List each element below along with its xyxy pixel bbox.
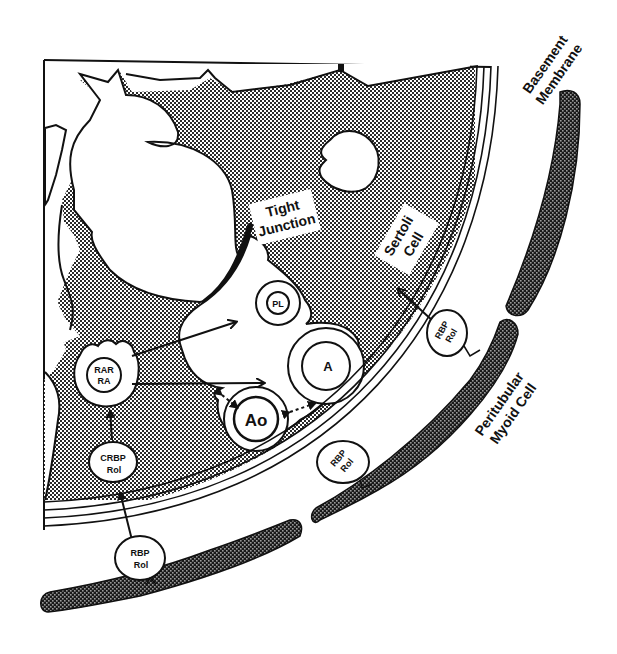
- node-a: A: [288, 328, 364, 404]
- rbp-bottom-label: RBP: [130, 548, 149, 558]
- germ-cell-small: [319, 131, 378, 192]
- node-rar-ra: RAR RA: [74, 340, 138, 406]
- ao-label: Ao: [245, 411, 268, 430]
- a-label: A: [323, 359, 333, 374]
- node-rbp-rol-right: RBP Rol: [427, 310, 467, 356]
- rol-bottom-label: Rol: [134, 560, 149, 570]
- ra-label: RA: [98, 376, 111, 386]
- crbp-rol-label: Rol: [107, 465, 122, 475]
- node-pl: PL: [256, 281, 300, 325]
- rar-label: RAR: [94, 365, 114, 375]
- node-rbp-rol-middle: RBP Rol: [317, 441, 369, 483]
- node-crbp-rol: CRBP Rol: [89, 442, 137, 482]
- node-rbp-rol-bottom: RBP Rol: [115, 536, 165, 580]
- rbp-right-anchor: [464, 346, 480, 356]
- crbp-label: CRBP: [100, 453, 126, 463]
- node-ao: Ao: [224, 387, 288, 451]
- diagram-canvas: PL A Ao RAR RA CRBP Rol: [0, 0, 617, 654]
- pl-label: PL: [272, 299, 284, 309]
